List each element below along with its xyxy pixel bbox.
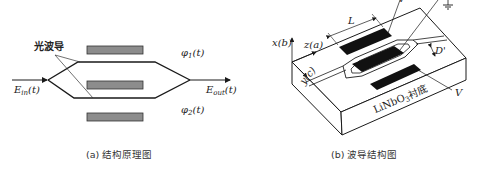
waveguide-label: 光波导 (34, 42, 64, 52)
voltage-top-label: V (398, 0, 405, 4)
input-field-label: Ein(t) (14, 85, 40, 97)
voltage-bottom-label: V (455, 88, 462, 98)
axis-x-label: x(b) (272, 38, 292, 48)
phase-top-label: φ1(t) (181, 48, 204, 60)
output-field-label: Eout(t) (206, 85, 237, 97)
axis-z-label: z(a) (304, 40, 323, 50)
caption-b: (b) 波导结构图 (331, 150, 397, 160)
caption-a: (a) 结构原理图 (86, 150, 152, 160)
gap-label: D' (435, 46, 446, 56)
length-label: L (348, 16, 355, 26)
phase-bottom-label: φ2(t) (181, 105, 204, 117)
electrode-top (87, 46, 143, 54)
leader-line-top (55, 55, 80, 62)
diagram-canvas (0, 0, 483, 174)
electrode-bottom (87, 113, 143, 121)
electrode-middle (87, 81, 143, 89)
ground-icon (443, 0, 453, 9)
